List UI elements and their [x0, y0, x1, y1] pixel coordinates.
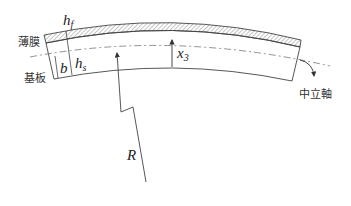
substrate-thickness-label: hs [75, 55, 87, 73]
thin-film-layer [44, 23, 301, 47]
film-label: 薄膜 [18, 35, 40, 49]
film-thickness-label: hf [63, 12, 75, 30]
neutral-offset-label: b [60, 60, 68, 76]
substrate-label: 基板 [24, 71, 46, 85]
neutral-axis-pointer [300, 60, 314, 76]
neutral-axis-label: 中立軸 [299, 87, 332, 101]
x3-label: x3 [176, 45, 189, 63]
neutral-offset-dim-line [55, 56, 58, 78]
radius-label: R [126, 147, 136, 163]
bent-film-substrate-diagram: 薄膜 基板 中立軸 hf hs b x3 R [0, 0, 351, 206]
